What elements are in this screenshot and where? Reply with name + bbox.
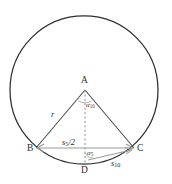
diagram-canvas (0, 0, 172, 184)
angle-apex-label: α10 (86, 102, 95, 109)
radius-label: r (51, 110, 54, 119)
vertex-label-c: C (137, 144, 143, 154)
circle-outline (10, 16, 158, 164)
decagon-side-subscript: 10 (114, 162, 120, 168)
vertex-label-d: D (81, 166, 88, 176)
segment-ac (85, 90, 134, 148)
half-side-tail: /2 (68, 137, 75, 147)
vertex-label-a: A (81, 76, 88, 86)
chord-bc-arrow (37, 144, 133, 152)
angle-apex-subscript: 10 (90, 104, 95, 109)
angle-foot-subscript: 5 (91, 152, 94, 157)
geometry-figure: A B C D r s5/2 s10 α10 α5 (0, 0, 172, 184)
angle-foot-label: α5 (87, 150, 93, 157)
half-side-label: s5/2 (62, 138, 75, 147)
segment-ab (36, 90, 85, 148)
decagon-side-label: s10 (111, 159, 120, 168)
vertex-label-b: B (27, 144, 33, 154)
segment-dc-arrow (88, 147, 132, 160)
